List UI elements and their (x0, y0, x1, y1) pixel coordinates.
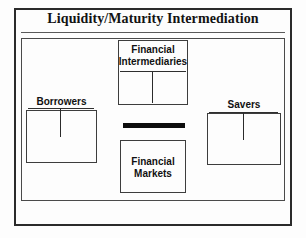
node-financial-intermediaries-label-line-2: Intermediaries (118, 56, 188, 68)
connector-financial-markets-bar (123, 123, 185, 128)
node-financial-markets-label: Financial Markets (120, 156, 186, 180)
node-borrowers-underline (28, 108, 94, 109)
node-financial-markets-label-line-2: Markets (120, 168, 186, 180)
node-savers (207, 113, 281, 165)
connector-savers-tee (243, 113, 244, 140)
node-borrowers-label: Borrowers (26, 96, 97, 108)
node-savers-label: Savers (207, 99, 281, 111)
figure-canvas: Liquidity/Maturity Intermediation Financ… (0, 0, 306, 238)
node-borrowers (26, 110, 97, 163)
node-financial-intermediaries-underline (120, 71, 186, 72)
figure-title: Liquidity/Maturity Intermediation (14, 11, 292, 27)
node-financial-intermediaries-label-line-1: Financial (118, 44, 188, 56)
title-divider (21, 32, 285, 33)
connector-borrowers-tee (60, 109, 61, 137)
node-financial-intermediaries-label: Financial Intermediaries (118, 44, 188, 68)
connector-financial-intermediaries-tee (152, 72, 153, 103)
node-financial-markets-label-line-1: Financial (120, 156, 186, 168)
